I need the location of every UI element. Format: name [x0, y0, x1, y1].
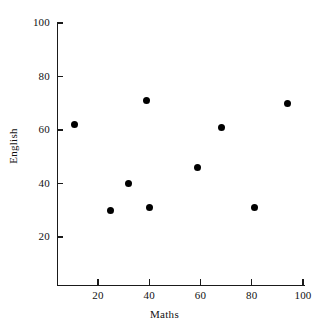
data-point: [218, 124, 225, 131]
data-point: [146, 204, 153, 211]
x-tick-40: [149, 279, 150, 285]
data-point: [107, 207, 114, 214]
x-tick-80: [251, 279, 252, 285]
x-tick-60: [200, 279, 201, 285]
x-tick-label-60: 60: [181, 290, 221, 301]
y-tick-label-80: 80: [0, 71, 50, 82]
data-point: [125, 180, 132, 187]
data-point: [71, 121, 78, 128]
y-axis-line: [57, 23, 58, 286]
x-tick-20: [97, 279, 98, 285]
x-tick-label-80: 80: [232, 290, 272, 301]
data-point: [143, 97, 150, 104]
data-point: [194, 164, 201, 171]
x-tick-label-20: 20: [78, 290, 118, 301]
y-tick-20: [57, 236, 63, 237]
x-tick-100: [302, 279, 303, 285]
x-axis-line: [57, 285, 305, 286]
y-tick-40: [57, 183, 63, 184]
y-tick-label-100: 100: [0, 17, 50, 28]
y-tick-100: [57, 22, 63, 23]
y-tick-80: [57, 76, 63, 77]
data-point: [284, 100, 291, 107]
scatter-plot: 20406080100 20406080100 English Maths: [0, 0, 329, 331]
y-tick-label-20: 20: [0, 231, 50, 242]
data-point: [251, 204, 258, 211]
x-tick-label-40: 40: [129, 290, 169, 301]
x-tick-label-100: 100: [283, 290, 323, 301]
y-axis-title: English: [7, 116, 19, 176]
x-axis-title: Maths: [0, 308, 329, 320]
y-tick-60: [57, 129, 63, 130]
y-tick-label-40: 40: [0, 178, 50, 189]
